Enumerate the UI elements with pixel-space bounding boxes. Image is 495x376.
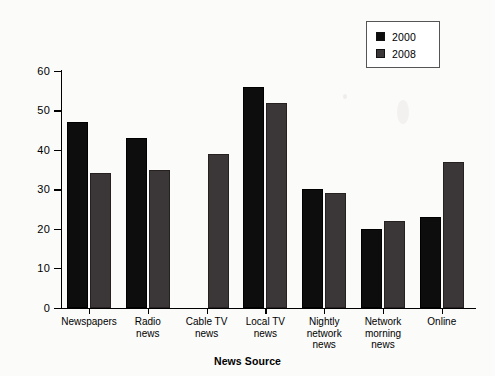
legend: 2000 2008 bbox=[366, 21, 440, 68]
x-category-label: Online bbox=[412, 316, 471, 328]
x-category-label: Newspapers bbox=[60, 316, 119, 328]
scan-artifact bbox=[343, 94, 347, 99]
x-category-line: Network bbox=[354, 316, 413, 328]
x-category-line: Online bbox=[412, 316, 471, 328]
x-category-line: Nightly bbox=[295, 316, 354, 328]
x-category-line: Cable TV bbox=[177, 316, 236, 328]
x-category-line: news bbox=[236, 328, 295, 340]
y-tick-label: 0 bbox=[44, 302, 50, 314]
y-tick-mark bbox=[54, 71, 62, 72]
y-tick-mark bbox=[54, 229, 62, 230]
x-category-line: news bbox=[354, 339, 413, 351]
bar-2000-newspapers bbox=[67, 122, 88, 307]
bar-2000-radio-news bbox=[126, 138, 147, 307]
legend-item-2008: 2008 bbox=[376, 45, 439, 62]
y-tick-mark bbox=[54, 268, 62, 269]
bar-2000-online bbox=[420, 217, 441, 308]
x-tick-mark bbox=[324, 308, 325, 314]
x-tick-mark bbox=[442, 308, 443, 314]
x-tick-mark bbox=[383, 308, 384, 314]
x-tick-mark bbox=[89, 308, 90, 314]
bar-chart: 0102030405060 Percentage of People Newsp… bbox=[0, 0, 495, 376]
y-tick-mark bbox=[54, 150, 62, 151]
x-category-line: news bbox=[177, 328, 236, 340]
y-tick-label: 10 bbox=[37, 262, 50, 274]
y-tick-mark bbox=[54, 308, 62, 309]
bar-2008-newspapers bbox=[90, 173, 111, 307]
y-tick-label: 40 bbox=[37, 144, 50, 156]
y-tick-mark bbox=[54, 110, 62, 111]
x-category-label: Local TVnews bbox=[236, 316, 295, 339]
x-category-line: network bbox=[295, 328, 354, 340]
legend-swatch-2008 bbox=[376, 49, 385, 58]
x-category-line: news bbox=[118, 328, 177, 340]
x-tick-mark bbox=[148, 308, 149, 314]
bar-2000-local-tv-news bbox=[243, 87, 264, 308]
y-tick-label: 60 bbox=[37, 65, 50, 77]
y-tick-label: 20 bbox=[37, 223, 50, 235]
x-category-line: Radio bbox=[118, 316, 177, 328]
scan-artifact bbox=[397, 100, 409, 124]
x-axis-label: News Source bbox=[0, 355, 495, 367]
x-category-line: news bbox=[295, 339, 354, 351]
bar-2008-radio-news bbox=[149, 170, 170, 308]
bar-2000-nightly-network-news bbox=[302, 189, 323, 307]
x-axis-line bbox=[61, 308, 476, 309]
legend-item-2000: 2000 bbox=[376, 28, 439, 45]
x-category-label: Nightlynetworknews bbox=[295, 316, 354, 351]
bar-2000-network-morning-news bbox=[361, 229, 382, 308]
bar-2008-nightly-network-news bbox=[325, 193, 346, 307]
bar-2008-online bbox=[443, 162, 464, 308]
legend-label-2000: 2000 bbox=[392, 31, 416, 43]
legend-swatch-2000 bbox=[376, 32, 385, 41]
y-tick-label: 30 bbox=[37, 183, 50, 195]
y-tick-label: 50 bbox=[37, 104, 50, 116]
x-tick-mark bbox=[265, 308, 266, 314]
x-category-label: Radionews bbox=[118, 316, 177, 339]
bar-2008-network-morning-news bbox=[384, 221, 405, 308]
x-tick-mark bbox=[207, 308, 208, 314]
x-category-line: Newspapers bbox=[60, 316, 119, 328]
x-category-line: morning bbox=[354, 328, 413, 340]
x-category-line: Local TV bbox=[236, 316, 295, 328]
bar-2008-cable-tv-news bbox=[208, 154, 229, 308]
bar-2008-local-tv-news bbox=[266, 103, 287, 308]
x-category-label: Networkmorningnews bbox=[354, 316, 413, 351]
x-category-label: Cable TVnews bbox=[177, 316, 236, 339]
legend-label-2008: 2008 bbox=[392, 48, 416, 60]
y-tick-mark bbox=[54, 189, 62, 190]
